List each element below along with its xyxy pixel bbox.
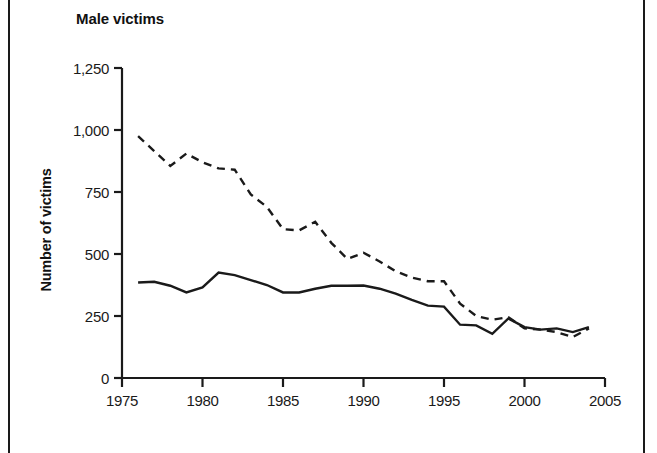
chart-figure: Male victims Number of victims 025050075…	[0, 0, 657, 453]
x-tick-label: 1980	[186, 392, 218, 409]
y-tick-label: 0	[101, 370, 109, 387]
series-line-solid-series	[138, 273, 589, 334]
y-tick-label: 1,000	[73, 122, 109, 139]
x-tick-label: 1975	[106, 392, 138, 409]
y-tick-label: 500	[85, 246, 109, 263]
y-tick-label: 250	[85, 308, 109, 325]
y-tick-label: 1,250	[73, 60, 109, 77]
x-tick-label: 2000	[508, 392, 540, 409]
x-tick-label: 1985	[267, 392, 299, 409]
x-tick-label: 1990	[347, 392, 379, 409]
x-tick-label: 2005	[589, 392, 621, 409]
y-tick-label: 750	[85, 184, 109, 201]
x-tick-label: 1995	[428, 392, 460, 409]
series-line-dashed-series	[138, 136, 589, 337]
